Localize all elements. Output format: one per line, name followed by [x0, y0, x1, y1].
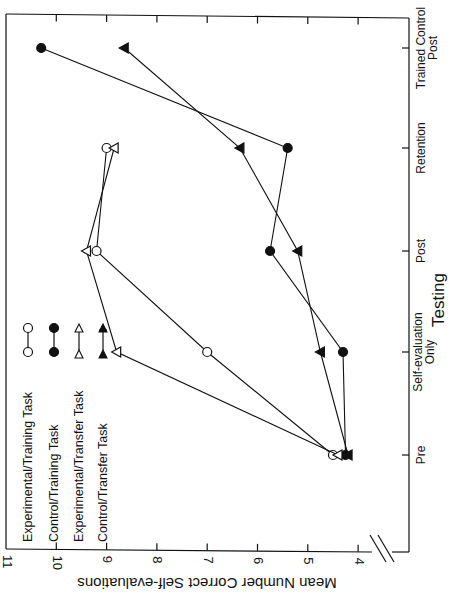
filled-triangle-marker — [293, 246, 302, 256]
x-axis-title: Testing — [429, 273, 448, 327]
filled-circle-marker — [37, 44, 46, 53]
legend-label: Experimental/Transfer Task — [72, 390, 86, 542]
value-tick-label: 5 — [301, 557, 316, 564]
line-chart: 1110987654 Pre Self-evaluation Only Post… — [0, 0, 452, 599]
value-tick-label: 4 — [352, 558, 367, 565]
value-tick-label: 7 — [201, 557, 216, 564]
legend: Experimental/Training TaskControl/Traini… — [21, 324, 110, 543]
series-control-transfer-task — [119, 43, 352, 460]
axis-break-mark — [370, 535, 386, 562]
axis-break-mark — [378, 535, 394, 562]
value-tick-label: 9 — [100, 556, 115, 563]
open-triangle-marker — [81, 246, 90, 256]
legend-label: Experimental/Training Task — [21, 391, 35, 542]
legend-triangle-marker — [75, 350, 83, 358]
series-line — [86, 148, 338, 455]
y-axis-title: Mean Number Correct Self-evaluations — [77, 575, 336, 592]
filled-circle-marker — [50, 348, 59, 357]
series-experimental-transfer-task — [81, 143, 342, 460]
category-label-pre: Pre — [414, 445, 428, 464]
legend-item: Control/Transfer Task — [96, 324, 110, 542]
series-experimental-training-task — [92, 144, 337, 460]
filled-circle-marker — [283, 144, 292, 153]
value-axis-line — [6, 549, 372, 552]
legend-triangle-marker — [99, 324, 107, 332]
category-label-post: Post — [414, 238, 428, 263]
open-circle-marker — [203, 348, 212, 357]
value-tick-label: 10 — [50, 555, 65, 569]
legend-item: Experimental/Transfer Task — [72, 324, 86, 542]
legend-item: Control/Training Task — [47, 324, 61, 543]
category-label-trained-control-post: Post — [426, 35, 440, 60]
value-tick-label: 8 — [150, 556, 165, 563]
legend-item: Experimental/Training Task — [21, 324, 35, 543]
value-tick-label: 6 — [251, 557, 266, 564]
value-axis-tick-labels: 1110987654 — [0, 555, 367, 570]
legend-label: Control/Transfer Task — [96, 422, 110, 542]
open-circle-marker — [24, 324, 33, 333]
filled-circle-marker — [339, 348, 348, 357]
open-circle-marker — [92, 247, 101, 256]
category-label-retention: Retention — [414, 122, 428, 173]
category-label-self-evaluation-only: Only — [423, 340, 437, 365]
series-line — [97, 148, 333, 455]
value-tick-label: 11 — [0, 555, 15, 569]
plot-frame — [6, 14, 409, 562]
legend-label: Control/Training Task — [47, 424, 61, 542]
legend-triangle-marker — [75, 324, 83, 332]
category-labels: Pre Self-evaluation Only Post Retention … — [411, 7, 440, 464]
series-line — [124, 48, 348, 455]
category-axis-ticks — [402, 48, 409, 455]
filled-triangle-marker — [119, 43, 128, 53]
open-circle-marker — [24, 348, 33, 357]
filled-circle-marker — [50, 324, 59, 333]
filled-circle-marker — [266, 247, 275, 256]
legend-triangle-marker — [99, 350, 107, 358]
